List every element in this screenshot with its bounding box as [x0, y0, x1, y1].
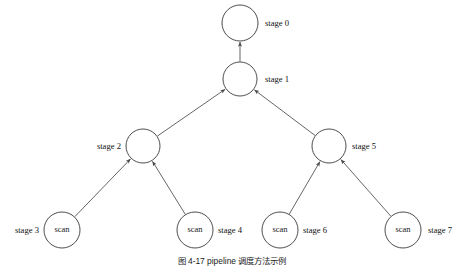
node-inner-label-stage6: scan: [272, 224, 288, 234]
node-inner-label-stage7: scan: [395, 224, 411, 234]
stage-tree-diagram: stage 0stage 1stage 2stage 5scanstage 3s…: [0, 0, 465, 266]
stage-label-stage4: stage 4: [218, 225, 243, 235]
stage-label-stage1: stage 1: [265, 74, 289, 84]
node-circle-stage2[interactable]: [126, 129, 160, 163]
node-circle-stage5[interactable]: [312, 129, 346, 163]
stage-label-stage7: stage 7: [428, 225, 453, 235]
node-stage6[interactable]: scanstage 6: [262, 212, 328, 248]
node-inner-label-stage4: scan: [187, 224, 203, 234]
edge-stage6-to-stage5: [289, 162, 320, 214]
stage-label-stage5: stage 5: [352, 141, 376, 151]
edge-stage4-to-stage2: [152, 161, 185, 214]
stage-label-stage3: stage 3: [15, 225, 39, 235]
stage-label-stage2: stage 2: [97, 141, 121, 151]
figure-caption: 图 4-17 pipeline 调度方法示例: [178, 256, 287, 266]
node-stage4[interactable]: scanstage 4: [177, 212, 243, 248]
node-circle-stage1[interactable]: [223, 62, 257, 96]
node-inner-label-stage3: scan: [54, 224, 70, 234]
edge-stage2-to-stage1: [157, 89, 225, 136]
edge-stage5-to-stage1: [254, 90, 315, 136]
node-stage3[interactable]: scanstage 3: [15, 212, 80, 248]
node-stage5[interactable]: stage 5: [312, 129, 376, 163]
tree-graphic: stage 0stage 1stage 2stage 5scanstage 3s…: [0, 0, 465, 266]
edge-stage7-to-stage5: [341, 160, 391, 217]
node-stage7[interactable]: scanstage 7: [385, 212, 453, 248]
node-circle-stage0[interactable]: [222, 5, 258, 41]
stage-label-stage6: stage 6: [303, 225, 328, 235]
node-stage2[interactable]: stage 2: [97, 129, 160, 163]
edge-stage3-to-stage2: [75, 159, 131, 217]
node-stage0[interactable]: stage 0: [222, 5, 289, 41]
stage-label-stage0: stage 0: [265, 18, 289, 28]
